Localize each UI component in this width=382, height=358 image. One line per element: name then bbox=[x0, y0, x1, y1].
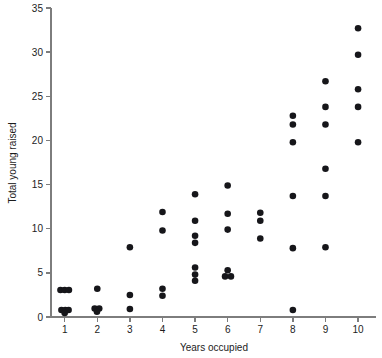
data-point bbox=[224, 267, 231, 274]
data-point bbox=[192, 217, 199, 224]
x-tick-label: 6 bbox=[225, 324, 231, 335]
y-tick-label: 25 bbox=[32, 91, 44, 102]
x-tick-label: 2 bbox=[95, 324, 101, 335]
data-point bbox=[224, 226, 231, 233]
y-tick-label: 20 bbox=[32, 135, 44, 146]
x-tick-label: 3 bbox=[127, 324, 133, 335]
x-tick-label: 4 bbox=[160, 324, 166, 335]
y-tick-label: 15 bbox=[32, 179, 44, 190]
data-point bbox=[290, 193, 297, 200]
data-point bbox=[322, 193, 329, 200]
x-tick-label: 7 bbox=[257, 324, 263, 335]
data-point bbox=[322, 244, 329, 251]
data-point bbox=[94, 308, 101, 315]
data-point bbox=[222, 273, 229, 280]
data-point bbox=[224, 182, 231, 189]
y-axis-title: Total young raised bbox=[7, 122, 18, 203]
data-point bbox=[290, 139, 297, 146]
plot-canvas: 05101520253035 12345678910 Years occupie… bbox=[0, 0, 382, 358]
x-tick-label: 5 bbox=[192, 324, 198, 335]
y-tick-label: 5 bbox=[37, 267, 43, 278]
y-tick-label: 35 bbox=[32, 3, 44, 14]
data-point bbox=[355, 139, 362, 146]
data-point bbox=[355, 86, 362, 93]
data-point bbox=[290, 245, 297, 252]
data-point bbox=[322, 165, 329, 172]
y-axis-ticks: 05101520253035 bbox=[32, 3, 51, 323]
data-point bbox=[192, 278, 199, 285]
data-point bbox=[355, 104, 362, 111]
data-point bbox=[322, 104, 329, 111]
data-point bbox=[290, 112, 297, 119]
data-point bbox=[257, 210, 264, 217]
data-point bbox=[192, 191, 199, 198]
x-axis-title: Years occupied bbox=[180, 342, 248, 353]
data-point bbox=[61, 310, 68, 317]
scatter-plot-figure: 05101520253035 12345678910 Years occupie… bbox=[0, 0, 382, 358]
data-point bbox=[290, 307, 297, 314]
x-tick-label: 10 bbox=[353, 324, 365, 335]
data-point bbox=[159, 209, 166, 216]
data-point bbox=[127, 244, 134, 251]
x-tick-label: 8 bbox=[290, 324, 296, 335]
data-point bbox=[192, 240, 199, 247]
x-axis-ticks: 12345678910 bbox=[62, 317, 364, 335]
data-point bbox=[159, 285, 166, 292]
data-point bbox=[192, 264, 199, 271]
data-point bbox=[127, 292, 134, 299]
data-point bbox=[159, 293, 166, 300]
data-point bbox=[94, 285, 101, 292]
data-point bbox=[66, 287, 73, 294]
data-point bbox=[159, 227, 166, 234]
data-point bbox=[224, 210, 231, 217]
data-point bbox=[355, 25, 362, 32]
data-point bbox=[355, 51, 362, 58]
y-tick-label: 30 bbox=[32, 47, 44, 58]
data-point bbox=[322, 121, 329, 128]
data-points-group bbox=[57, 25, 361, 316]
y-tick-label: 10 bbox=[32, 223, 44, 234]
data-point bbox=[257, 235, 264, 242]
data-point bbox=[127, 306, 134, 313]
data-point bbox=[228, 273, 235, 280]
data-point bbox=[290, 121, 297, 128]
data-point bbox=[192, 271, 199, 278]
data-point bbox=[322, 78, 329, 85]
x-tick-label: 9 bbox=[323, 324, 329, 335]
x-tick-label: 1 bbox=[62, 324, 68, 335]
y-tick-label: 0 bbox=[37, 312, 43, 323]
data-point bbox=[192, 232, 199, 239]
data-point bbox=[257, 217, 264, 224]
